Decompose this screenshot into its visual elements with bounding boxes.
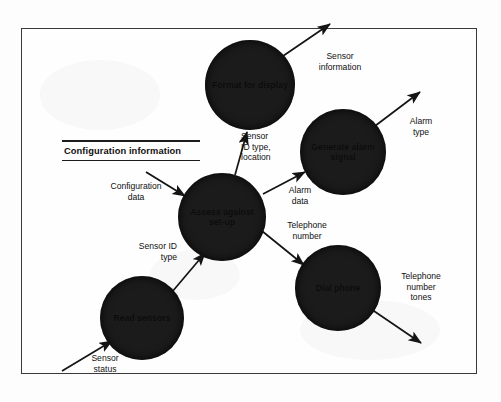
process-format-for-display[interactable]: Format for display	[205, 40, 295, 130]
process-dial-phone[interactable]: Dial phone	[295, 245, 381, 331]
flow-label-alarm-data: Alarm data	[272, 185, 328, 206]
process-label: Read sensors	[108, 313, 177, 323]
flow-label-sensor-status: Sensor status	[76, 353, 134, 374]
process-generate-alarm-signal[interactable]: Generate alarm signal	[300, 109, 386, 195]
process-label: Format for display	[206, 80, 294, 90]
flow-label-sensor-id-type: Sensor ID type	[103, 241, 177, 262]
process-label: Dial phone	[310, 283, 366, 293]
flow-label-telephone-number: Telephone number	[268, 220, 346, 241]
process-read-sensors[interactable]: Read sensors	[100, 276, 184, 360]
process-assess-against-set-up[interactable]: Assess against set-up	[178, 173, 266, 261]
data-store-configuration-information[interactable]: Configuration information	[62, 140, 200, 172]
diagram-canvas: Configuration information Format for dis…	[0, 0, 501, 402]
store-rule-bottom	[62, 160, 200, 162]
process-label: Assess against set-up	[178, 207, 266, 227]
store-label: Configuration information	[62, 142, 200, 160]
flow-label-telephone-number-tones: Telephone number tones	[385, 271, 457, 303]
flow-label-configuration-data: Configuration data	[98, 181, 174, 202]
flow-label-alarm-type: Alarm type	[391, 116, 451, 137]
flow-label-sensor-id-type-location: Sensor ID type, location	[241, 131, 311, 163]
process-label: Generate alarm signal	[300, 142, 386, 162]
flow-label-sensor-information: Sensor information	[303, 51, 377, 72]
